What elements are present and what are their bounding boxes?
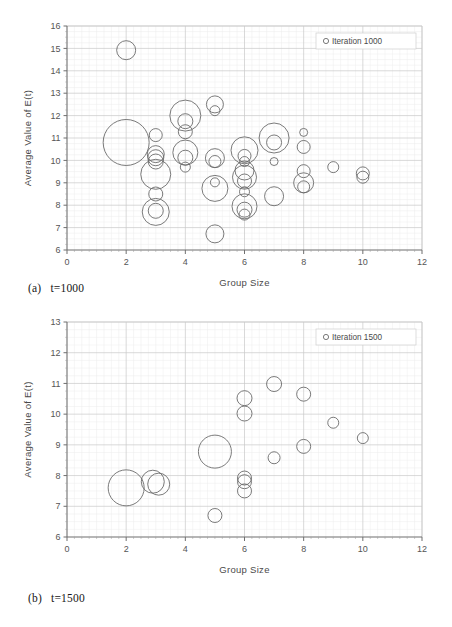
legend-label: Iteration 1500: [332, 333, 383, 342]
x-tick-label: 6: [242, 257, 247, 267]
caption-a-text: t=1000: [50, 282, 84, 294]
y-axis-title: Average Value of E(t): [22, 381, 33, 477]
x-axis-title: Group Size: [219, 277, 270, 288]
chart-panel-a: 678910111213141516024681012Group SizeAve…: [0, 0, 452, 300]
y-axis-ticks: 678910111213: [50, 317, 67, 542]
caption-b-index: (b): [28, 592, 42, 604]
chart-a-svg: 678910111213141516024681012Group SizeAve…: [0, 0, 452, 300]
x-axis-title: Group Size: [219, 564, 270, 575]
y-tick-label: 6: [55, 245, 60, 255]
x-tick-label: 12: [417, 257, 427, 267]
chart-a-container: 678910111213141516024681012Group SizeAve…: [0, 0, 452, 300]
x-tick-label: 6: [242, 544, 247, 554]
x-tick-label: 0: [64, 544, 69, 554]
x-tick-label: 4: [183, 544, 188, 554]
caption-a: (a)t=1000: [28, 282, 84, 294]
x-tick-label: 8: [301, 544, 306, 554]
y-tick-label: 7: [55, 223, 60, 233]
y-tick-label: 8: [55, 200, 60, 210]
caption-a-index: (a): [28, 282, 41, 294]
figure-bubble-charts: 678910111213141516024681012Group SizeAve…: [0, 0, 452, 627]
legend: Iteration 1000: [316, 33, 416, 49]
x-tick-label: 10: [358, 257, 368, 267]
x-tick-label: 0: [64, 257, 69, 267]
y-axis-ticks: 678910111213141516: [50, 21, 67, 255]
y-tick-label: 7: [55, 501, 60, 511]
y-tick-label: 14: [50, 66, 60, 76]
y-tick-label: 13: [50, 317, 60, 327]
x-tick-label: 2: [124, 257, 129, 267]
legend: Iteration 1500: [316, 329, 416, 345]
caption-b: (b)t=1500: [28, 592, 85, 604]
y-tick-label: 9: [55, 178, 60, 188]
x-axis-ticks: 024681012: [64, 250, 427, 267]
grid-lines: [67, 26, 422, 250]
y-tick-label: 11: [51, 379, 60, 389]
x-tick-label: 2: [124, 544, 129, 554]
x-tick-label: 4: [183, 257, 188, 267]
caption-b-text: t=1500: [51, 592, 85, 604]
y-tick-label: 11: [51, 133, 60, 143]
y-tick-label: 10: [50, 156, 60, 166]
chart-b-container: 678910111213024681012Group SizeAverage V…: [0, 300, 452, 590]
y-tick-label: 13: [50, 88, 60, 98]
y-tick-label: 12: [50, 111, 60, 121]
y-tick-label: 8: [55, 471, 60, 481]
y-tick-label: 15: [50, 44, 60, 54]
chart-panel-b: 678910111213024681012Group SizeAverage V…: [0, 300, 452, 627]
x-tick-label: 8: [301, 257, 306, 267]
y-tick-label: 16: [50, 21, 60, 31]
y-tick-label: 10: [50, 409, 60, 419]
y-tick-label: 6: [55, 532, 60, 542]
chart-b-svg: 678910111213024681012Group SizeAverage V…: [0, 300, 452, 590]
y-tick-label: 9: [55, 440, 60, 450]
x-tick-label: 10: [358, 544, 368, 554]
legend-label: Iteration 1000: [332, 37, 383, 46]
y-axis-title: Average Value of E(t): [22, 90, 33, 186]
y-tick-label: 12: [50, 348, 60, 358]
x-tick-label: 12: [417, 544, 427, 554]
x-axis-ticks: 024681012: [64, 537, 427, 554]
data-points: [108, 377, 368, 523]
